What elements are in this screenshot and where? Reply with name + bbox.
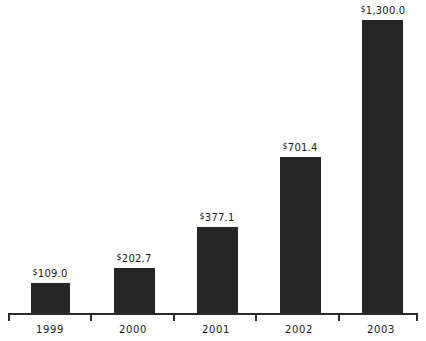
value-text: 701.4	[288, 142, 318, 153]
bar-2001	[197, 227, 238, 313]
x-tick-label-2001: 2001	[202, 324, 230, 335]
x-axis-tick-2	[173, 313, 175, 321]
plot-area: $109.0 $202.7 $377.1 $701.4 $1,300.0 199…	[0, 0, 426, 341]
value-text: 377.1	[205, 212, 235, 223]
x-axis-tick-3	[255, 313, 257, 321]
bar-1999	[31, 283, 70, 313]
value-label-2001: $377.1	[200, 212, 235, 223]
value-label-2000: $202.7	[117, 253, 152, 264]
x-axis-tick-end	[416, 313, 418, 321]
x-tick-label-1999: 1999	[36, 324, 64, 335]
x-axis-tick-1	[90, 313, 92, 321]
x-axis-tick-start	[8, 313, 10, 321]
x-tick-label-2000: 2000	[119, 324, 147, 335]
value-label-1999: $109.0	[33, 268, 68, 279]
x-axis-tick-4	[338, 313, 340, 321]
bar-chart: $109.0 $202.7 $377.1 $701.4 $1,300.0 199…	[0, 0, 426, 341]
value-text: 109.0	[38, 268, 68, 279]
bar-2003	[362, 20, 403, 313]
x-axis-line	[8, 313, 418, 315]
value-label-2002: $701.4	[283, 142, 318, 153]
value-text: 202.7	[122, 253, 152, 264]
value-label-2003: $1,300.0	[361, 5, 406, 16]
x-tick-label-2002: 2002	[285, 324, 313, 335]
bar-2002	[280, 157, 321, 313]
value-text: 1,300.0	[366, 5, 406, 16]
bar-2000	[114, 268, 155, 313]
x-tick-label-2003: 2003	[367, 324, 395, 335]
